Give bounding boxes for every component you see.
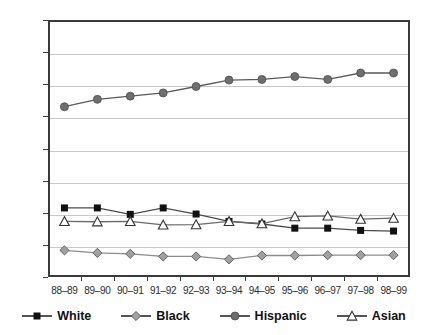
legend-label: White — [57, 309, 91, 323]
y-axis-tick-mark — [43, 245, 48, 246]
x-axis-tick-label: 89–90 — [84, 285, 110, 296]
x-axis-tick-mark — [81, 277, 82, 281]
x-axis-tick-label: 95–96 — [282, 285, 308, 296]
gridline — [50, 183, 408, 184]
x-axis-tick-mark — [147, 277, 148, 281]
x-axis-tick-label: 90–91 — [117, 285, 143, 296]
x-axis-tick-mark — [377, 277, 378, 281]
x-axis-tick-label: 93–94 — [216, 285, 242, 296]
x-axis-tick-label: 92–93 — [183, 285, 209, 296]
y-axis-tick-mark — [43, 84, 48, 85]
x-axis-tick-mark — [213, 277, 214, 281]
y-axis-tick-mark — [43, 149, 48, 150]
chart-legend: WhiteBlackHispanicAsian — [0, 303, 428, 329]
gridline — [50, 118, 408, 119]
x-axis-tick-mark — [114, 277, 115, 281]
plot-area — [48, 20, 410, 277]
gridline — [50, 54, 408, 55]
gridline — [50, 215, 408, 216]
legend-marker-gray-diamond-icon — [121, 310, 151, 322]
data-point-marker — [132, 311, 141, 320]
y-axis-tick-mark — [43, 20, 48, 21]
x-axis-tick-label: 98–99 — [380, 285, 406, 296]
y-axis-tick-mark — [43, 277, 48, 278]
x-axis-tick-mark — [278, 277, 279, 281]
gridline — [50, 151, 408, 152]
y-axis-tick-mark — [43, 116, 48, 117]
x-axis-tick-label: 94–95 — [249, 285, 275, 296]
x-axis-tick-label: 96–97 — [315, 285, 341, 296]
legend-marker-open-triangle-icon — [337, 310, 367, 322]
legend-marker-filled-square-icon — [22, 310, 52, 322]
data-point-marker — [34, 313, 41, 320]
y-axis-tick-mark — [43, 52, 48, 53]
legend-item-asian[interactable]: Asian — [337, 309, 406, 323]
x-axis-tick-mark — [180, 277, 181, 281]
x-axis-tick-mark — [245, 277, 246, 281]
y-axis-tick-mark — [43, 181, 48, 182]
gridline — [50, 86, 408, 87]
y-axis-tick-mark — [43, 213, 48, 214]
x-axis-tick-mark — [344, 277, 345, 281]
x-axis-tick-mark — [311, 277, 312, 281]
legend-item-hispanic[interactable]: Hispanic — [220, 309, 307, 323]
legend-marker-gray-circle-icon — [220, 310, 250, 322]
data-point-marker — [231, 312, 239, 320]
legend-label: Asian — [372, 309, 406, 323]
legend-item-white[interactable]: White — [22, 309, 91, 323]
x-axis-tick-label: 88–89 — [51, 285, 77, 296]
legend-label: Hispanic — [255, 309, 307, 323]
x-axis-tick-label: 97–98 — [347, 285, 373, 296]
legend-item-black[interactable]: Black — [121, 309, 189, 323]
gridline — [50, 247, 408, 248]
legend-label: Black — [156, 309, 189, 323]
x-axis-tick-label: 91–92 — [150, 285, 176, 296]
line-chart: 0%10%20%30%40%50%60%70%80% 88–8989–9090–… — [0, 0, 428, 335]
data-point-marker — [347, 311, 357, 320]
